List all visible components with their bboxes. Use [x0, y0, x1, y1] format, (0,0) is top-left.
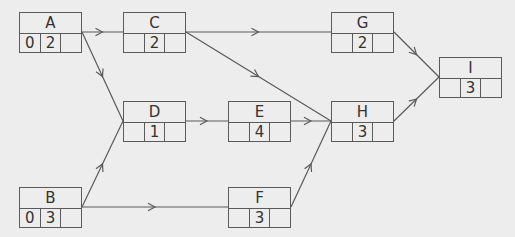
node-cell-duration: 2 [41, 34, 62, 53]
node-label: E [229, 102, 290, 123]
edge-b-f [82, 203, 228, 211]
node-cell-end [61, 209, 81, 228]
node-f: F 3 [228, 187, 291, 228]
node-cell-end [270, 209, 290, 228]
node-cell-start: 0 [20, 34, 41, 53]
node-cell-start [124, 123, 145, 142]
node-label: H [332, 102, 393, 123]
node-label: D [124, 102, 185, 123]
node-cell-duration: 4 [250, 123, 271, 142]
node-cell-duration: 3 [250, 209, 271, 228]
node-cell-duration: 3 [353, 123, 374, 142]
node-cell-end [270, 123, 290, 142]
node-cell-duration: 3 [41, 209, 62, 228]
node-cell-start: 0 [20, 209, 41, 228]
node-g: G 2 [331, 12, 394, 53]
node-label: I [440, 58, 501, 79]
edge-a-c [82, 28, 123, 36]
node-cell-duration: 2 [353, 34, 374, 53]
node-a: A 0 2 [19, 12, 82, 53]
node-cell-start [229, 209, 250, 228]
edge-a-d [82, 32, 123, 121]
edge-c-g [186, 28, 331, 36]
node-cell-end [165, 34, 185, 53]
node-h: H 3 [331, 101, 394, 142]
node-c: C 2 [123, 12, 186, 53]
node-label: G [332, 13, 393, 34]
node-label: C [124, 13, 185, 34]
node-e: E 4 [228, 101, 291, 142]
node-cell-end [373, 123, 393, 142]
network-diagram: A 0 2 B 0 3 C 2 D 1 E [0, 0, 515, 237]
edge-h-i [394, 77, 439, 121]
node-b: B 0 3 [19, 187, 82, 228]
node-cell-start [229, 123, 250, 142]
node-cell-start [440, 79, 461, 98]
node-cell-duration: 1 [145, 123, 166, 142]
edge-d-e [186, 117, 228, 125]
node-label: F [229, 188, 290, 209]
node-cell-end [61, 34, 81, 53]
node-cell-start [332, 34, 353, 53]
edge-f-h [291, 121, 331, 207]
edge-b-d [82, 121, 123, 207]
node-cell-duration: 2 [145, 34, 166, 53]
edge-e-h [291, 117, 331, 125]
node-label: A [20, 13, 81, 34]
node-cell-end [165, 123, 185, 142]
node-cell-end [373, 34, 393, 53]
node-cell-start [124, 34, 145, 53]
edge-g-i [394, 32, 439, 77]
node-cell-duration: 3 [461, 79, 482, 98]
node-i: I 3 [439, 57, 502, 98]
node-cell-end [481, 79, 501, 98]
node-d: D 1 [123, 101, 186, 142]
node-label: B [20, 188, 81, 209]
node-cell-start [332, 123, 353, 142]
